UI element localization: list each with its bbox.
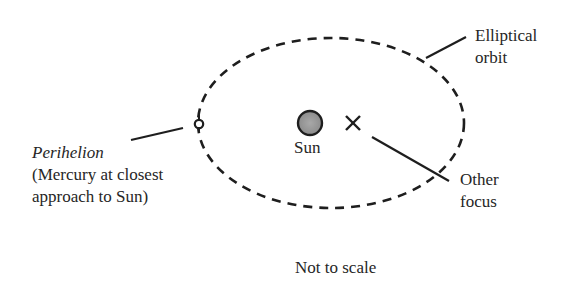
perihelion-label-line2: (Mercury at closest <box>32 165 164 184</box>
sun-label: Sun <box>294 138 321 157</box>
elliptical-orbit <box>198 38 464 208</box>
orbit-label-line1: Elliptical <box>475 26 538 45</box>
perihelion-leader-line <box>131 128 183 140</box>
sun-icon <box>298 111 322 135</box>
perihelion-label-line3: approach to Sun) <box>32 187 148 206</box>
focus-label-line2: focus <box>460 192 497 211</box>
orbit-leader-line <box>426 37 466 58</box>
orbit-diagram: Elliptical orbit Perihelion (Mercury at … <box>0 0 582 282</box>
perihelion-point <box>195 115 203 133</box>
other-focus-x-icon <box>346 116 360 130</box>
focus-leader-line <box>372 137 449 181</box>
orbit-label-line2: orbit <box>475 48 507 67</box>
perihelion-label-title: Perihelion <box>31 143 104 162</box>
focus-label-line1: Other <box>460 170 499 189</box>
not-to-scale-note: Not to scale <box>295 258 376 277</box>
